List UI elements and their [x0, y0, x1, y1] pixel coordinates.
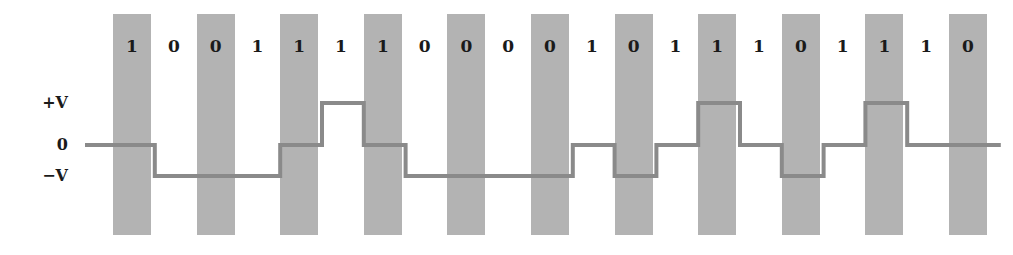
voltage-axis-labels: +V0−V	[0, 0, 1013, 255]
line-encoding-figure: 100111100001011101110 +V0−V	[0, 0, 1013, 255]
axis-label-plus-v: +V	[0, 95, 68, 111]
axis-label-zero: 0	[0, 137, 68, 153]
axis-label-minus-v: −V	[0, 168, 68, 184]
